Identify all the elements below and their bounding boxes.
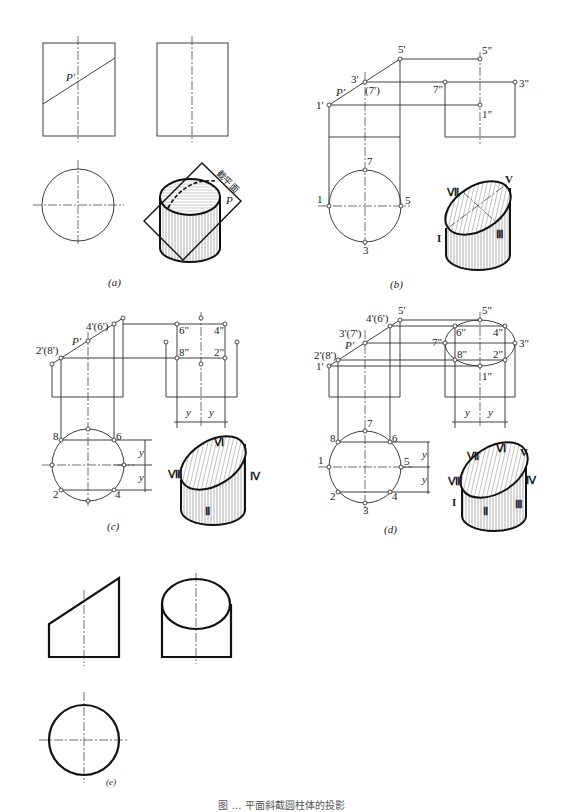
d-label-4: 4	[392, 490, 398, 502]
d-label-4pp: 4"	[493, 326, 503, 338]
d-label-7pp: 7"	[432, 336, 442, 348]
c-label-4pp: 4"	[214, 324, 224, 336]
c-dim-y2: y	[208, 406, 214, 418]
b-iso-VII: Ⅶ	[446, 186, 459, 198]
c-label-2p: 2'(8')	[36, 344, 59, 357]
c-dim-y3: y	[138, 446, 144, 458]
d-label-5: 5	[404, 455, 410, 467]
b-label-1p: 1'	[316, 99, 324, 111]
c-label-4: 4	[115, 488, 121, 500]
a-cutting-plane-trace	[43, 58, 115, 104]
d-label-5pp: 5"	[482, 304, 492, 316]
d-iso-V: V	[520, 446, 528, 458]
figure-caption: 图 … 平面斜截圆柱体的投影	[0, 797, 563, 812]
d-iso-IV: Ⅳ	[526, 474, 537, 486]
c-iso-VI: Ⅵ	[213, 436, 224, 448]
c-plane-label: P'	[71, 335, 82, 347]
c-panel-label: (c)	[107, 520, 120, 533]
c-label-8: 8	[53, 430, 59, 442]
d-label-8: 8	[330, 432, 336, 444]
b-label-5pp: 5"	[482, 44, 492, 56]
a-panel-label: (a)	[108, 276, 121, 289]
d-iso-VII: Ⅶ	[466, 450, 479, 462]
d-label-2pp: 2"	[493, 348, 503, 360]
d-label-2p: 2'(8')	[314, 349, 337, 362]
d-iso-II: Ⅱ	[483, 505, 488, 517]
b-label-5: 5	[405, 194, 411, 206]
b-label-7p: (7')	[365, 84, 380, 97]
c-label-8pp: 8"	[179, 346, 189, 358]
b-iso-I: I	[437, 232, 441, 244]
a-front-view-outline	[43, 43, 115, 136]
d-label-3pp: 3"	[519, 337, 529, 349]
d-dim-y3: y	[421, 448, 427, 460]
e-panel-label: (e)	[106, 777, 116, 787]
d-label-6pp: 6"	[456, 326, 466, 338]
c-label-6pp: 6"	[179, 324, 189, 336]
b-isometric-view: Ⅶ V I Ⅲ	[436, 170, 520, 270]
c-label-2pp: 2"	[214, 346, 224, 358]
d-iso-VI: Ⅵ	[495, 442, 506, 454]
b-label-1: 1	[317, 193, 323, 205]
d-label-1p: 1'	[316, 360, 324, 372]
panel-b: 1' 3' (7') 5' P' 5" 7" 3" 1" 7 1 5 3 Ⅶ V…	[316, 43, 529, 291]
c-iso-II: Ⅱ	[205, 505, 210, 517]
c-isometric-view: Ⅵ Ⅳ Ⅷ Ⅱ	[167, 425, 261, 525]
c-label-6: 6	[116, 430, 122, 442]
d-label-2: 2	[330, 490, 336, 502]
panel-a: P' 截平面 P (a)	[33, 36, 241, 289]
d-label-1: 1	[318, 454, 324, 466]
b-plane-label: P'	[335, 86, 346, 98]
d-label-4p: 4'(6')	[366, 312, 389, 325]
panel-e: (e)	[39, 573, 231, 787]
d-label-7: 7	[367, 417, 373, 429]
a-plane-label: P'	[65, 71, 76, 83]
c-label-4p: 4'(6')	[86, 320, 109, 333]
e-side-view	[162, 604, 231, 657]
b-label-5p: 5'	[398, 43, 406, 55]
c-dim-y4: y	[138, 471, 144, 483]
d-iso-I: I	[452, 496, 456, 508]
d-iso-VIII: Ⅷ	[447, 475, 462, 487]
d-dim-y1: y	[464, 406, 470, 418]
b-label-7pp: 7"	[433, 83, 443, 95]
b-label-3: 3	[363, 244, 369, 256]
b-iso-V: V	[505, 173, 513, 185]
c-label-2: 2	[53, 488, 59, 500]
c-iso-VIII: Ⅷ	[167, 468, 182, 480]
d-dim-y2: y	[487, 406, 493, 418]
b-label-3p: 3'	[351, 73, 359, 85]
d-plane-label: P'	[344, 339, 355, 351]
a-isometric-view: 截平面 P	[144, 163, 241, 262]
d-panel-label: (d)	[384, 523, 397, 536]
panel-c: 2'(8') 4'(6') P' 6" 4" 8" 2" y y 8 6 2 4…	[36, 312, 261, 533]
d-label-1pp: 1"	[482, 370, 492, 382]
panel-d: 1' 2'(8') 3'(7') 4'(6') 5' P' 5" 6" 4" 7…	[314, 304, 538, 536]
c-dim-y1: y	[185, 406, 191, 418]
d-label-3: 3	[363, 504, 369, 516]
b-panel-label: (b)	[390, 278, 403, 291]
c-iso-IV: Ⅳ	[250, 470, 261, 482]
d-label-5p: 5'	[398, 304, 406, 316]
d-label-6: 6	[392, 432, 398, 444]
b-label-3pp: 3"	[519, 77, 529, 89]
d-label-8pp: 8"	[457, 348, 467, 360]
d-isometric-view: Ⅵ V Ⅶ Ⅳ Ⅷ I Ⅱ Ⅲ	[447, 431, 538, 531]
b-iso-III: Ⅲ	[496, 228, 504, 240]
a-side-view-outline	[157, 43, 228, 136]
d-dim-y4: y	[421, 473, 427, 485]
a-iso-plane-p: P	[225, 194, 233, 206]
b-label-7: 7	[367, 155, 373, 167]
d-iso-III: Ⅲ	[515, 498, 523, 510]
b-label-1pp: 1"	[482, 108, 492, 120]
